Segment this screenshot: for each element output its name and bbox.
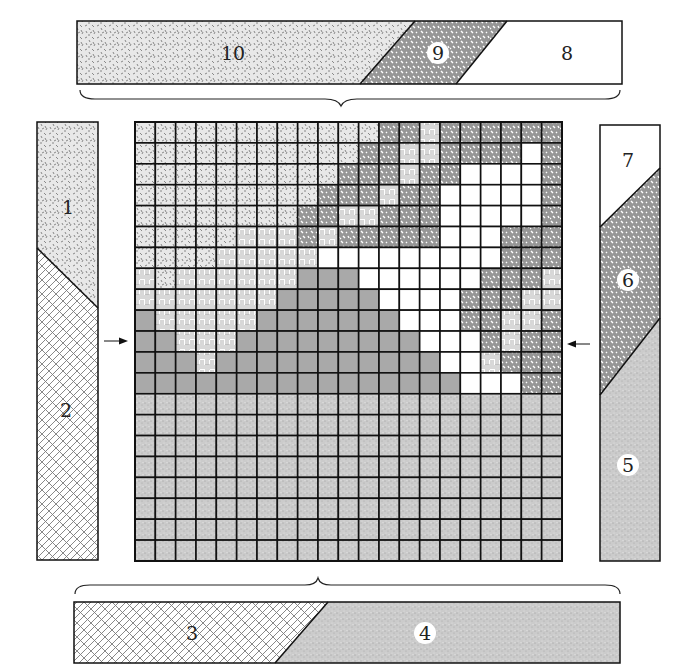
grid-cell-light-speckle [298,185,318,206]
grid-cell-basketweave [237,310,257,331]
grid-cell-solid-gray [359,352,379,373]
grid-cell-dark-mottled [440,143,460,164]
grid-cell-white [521,164,541,185]
grid-cell-light-speckle [216,185,236,206]
segment-label-3: 3 [186,622,198,644]
grid-cell-fine-sand [176,456,196,477]
grid-cell-dark-mottled [542,331,562,352]
grid-cell-white [521,143,541,164]
grid-cell-fine-sand [257,415,277,436]
grid-cell-light-speckle [257,206,277,227]
grid-cell-solid-gray [135,373,155,394]
grid-cell-fine-sand [135,394,155,415]
grid-cell-light-speckle [318,122,338,143]
grid-cell-fine-sand [481,456,501,477]
grid-cell-basketweave [155,310,175,331]
grid-cell-dark-mottled [359,164,379,185]
grid-cell-basketweave [216,247,236,268]
grid-cell-white [460,206,480,227]
grid-cell-fine-sand [216,519,236,540]
grid-cell-dark-mottled [521,331,541,352]
segment-label-9: 9 [432,42,444,64]
grid-cell-fine-sand [359,540,379,561]
grid-cell-light-speckle [257,164,277,185]
grid-cell-basketweave [399,143,419,164]
grid-cell-dark-mottled [501,122,521,143]
main-grid [135,122,562,561]
grid-cell-fine-sand [298,498,318,519]
grid-cell-light-speckle [135,122,155,143]
grid-cell-fine-sand [216,456,236,477]
grid-cell-basketweave [135,268,155,289]
grid-cell-white [481,227,501,248]
grid-cell-fine-sand [135,415,155,436]
grid-cell-fine-sand [359,477,379,498]
grid-cell-light-speckle [338,143,358,164]
grid-cell-fine-sand [521,498,541,519]
grid-cell-fine-sand [277,498,297,519]
grid-cell-fine-sand [379,394,399,415]
grid-cell-dark-mottled [542,185,562,206]
grid-cell-dark-mottled [521,268,541,289]
grid-cell-solid-gray [216,373,236,394]
grid-cell-solid-gray [318,373,338,394]
grid-cell-fine-sand [155,436,175,457]
grid-cell-white [460,185,480,206]
grid-cell-white [440,289,460,310]
grid-cell-fine-sand [460,519,480,540]
grid-cell-white [379,268,399,289]
grid-cell-dark-mottled [460,310,480,331]
grid-cell-basketweave [481,352,501,373]
grid-cell-white [318,247,338,268]
grid-cell-white [440,268,460,289]
right-arrow [567,341,590,348]
grid-cell-light-speckle [196,164,216,185]
grid-cell-light-speckle [338,122,358,143]
grid-cell-fine-sand [196,456,216,477]
grid-cell-white [440,227,460,248]
grid-cell-solid-gray [318,289,338,310]
grid-cell-fine-sand [277,477,297,498]
grid-cell-dark-mottled [379,143,399,164]
grid-cell-light-speckle [237,143,257,164]
grid-cell-basketweave [420,122,440,143]
grid-cell-dark-mottled [501,247,521,268]
grid-cell-fine-sand [420,394,440,415]
grid-cell-solid-gray [155,373,175,394]
grid-cell-light-speckle [176,247,196,268]
grid-cell-basketweave [237,268,257,289]
grid-cell-fine-sand [155,477,175,498]
grid-cell-light-speckle [237,122,257,143]
grid-cell-fine-sand [542,498,562,519]
grid-cell-fine-sand [379,498,399,519]
grid-cell-fine-sand [237,456,257,477]
grid-cell-solid-gray [277,373,297,394]
grid-cell-dark-mottled [521,352,541,373]
grid-cell-solid-gray [338,310,358,331]
grid-cell-basketweave [216,289,236,310]
grid-cell-fine-sand [399,477,419,498]
grid-cell-fine-sand [298,540,318,561]
grid-cell-solid-gray [338,352,358,373]
grid-cell-fine-sand [176,477,196,498]
grid-cell-fine-sand [399,519,419,540]
grid-cell-light-speckle [176,122,196,143]
grid-cell-fine-sand [155,394,175,415]
grid-cell-solid-gray [277,352,297,373]
grid-cell-dark-mottled [542,247,562,268]
grid-cell-fine-sand [237,477,257,498]
grid-cell-white [521,206,541,227]
grid-cell-solid-gray [196,373,216,394]
grid-cell-dark-mottled [542,206,562,227]
grid-cell-fine-sand [521,519,541,540]
grid-cell-solid-gray [135,352,155,373]
grid-cell-basketweave [257,227,277,248]
grid-cell-light-speckle [176,143,196,164]
grid-cell-dark-mottled [521,373,541,394]
grid-cell-light-speckle [196,122,216,143]
grid-cell-fine-sand [277,394,297,415]
grid-cell-fine-sand [298,415,318,436]
top-bar: 10 9 8 [77,21,622,84]
grid-cell-fine-sand [155,456,175,477]
grid-cell-dark-mottled [501,227,521,248]
